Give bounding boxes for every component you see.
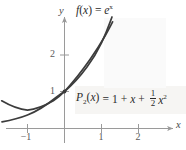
x-axis-label: x	[176, 119, 181, 130]
polynomial-term-3-exponent: 2	[163, 93, 167, 101]
polynomial-term-2: x	[130, 94, 135, 106]
polynomial-equals: =	[102, 94, 109, 106]
fraction-denominator: 2	[150, 98, 157, 108]
polynomial-name: P	[76, 91, 83, 103]
polynomial-label: P2(x) = 1 + x + 1 2 x2	[76, 90, 170, 109]
polynomial-coefficient-fraction: 1 2	[150, 89, 157, 108]
y-axis-label: y	[59, 5, 64, 16]
tangency-point-marker	[63, 90, 67, 94]
fraction-numerator: 1	[150, 89, 157, 98]
y-tick-label-2: 2	[47, 48, 58, 59]
x-tick-label-neg1: −1	[19, 131, 33, 142]
x-tick-label-2: 2	[132, 131, 144, 142]
y-tick-label-1: 1	[47, 85, 58, 96]
function-equals: =	[95, 4, 102, 16]
x-tick-label-1: 1	[95, 131, 107, 142]
taylor-polynomial-figure: f(x) = ex P2(x) = 1 + x + 1 2 x2 y x 1 2…	[0, 0, 186, 150]
polynomial-plus-2: +	[138, 94, 145, 106]
polynomial-arg-close: )	[96, 91, 100, 103]
function-label: f(x) = ex	[76, 4, 113, 16]
polynomial-term-1: 1	[112, 94, 118, 106]
polynomial-plus-1: +	[121, 94, 128, 106]
function-arg-close: )	[88, 4, 92, 16]
plot-canvas	[0, 0, 186, 150]
polynomial-lhs: P2(x)	[76, 92, 99, 106]
function-exponent: x	[109, 3, 113, 11]
polynomial-term-3: x2	[158, 94, 167, 106]
